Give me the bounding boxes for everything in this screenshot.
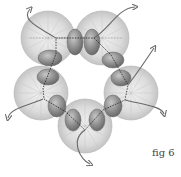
beading-diagram: fig 6 xyxy=(0,0,181,177)
rondelle-beads xyxy=(14,11,158,153)
oval-bead xyxy=(48,95,66,117)
oval-bead xyxy=(38,50,62,66)
oval-bead xyxy=(65,109,81,131)
figure-caption: fig 6 xyxy=(152,147,175,158)
oval-bead xyxy=(37,69,59,85)
oval-bead xyxy=(102,52,124,68)
oval-bead xyxy=(67,29,83,55)
oval-bead xyxy=(104,95,122,117)
oval-bead xyxy=(89,109,105,131)
